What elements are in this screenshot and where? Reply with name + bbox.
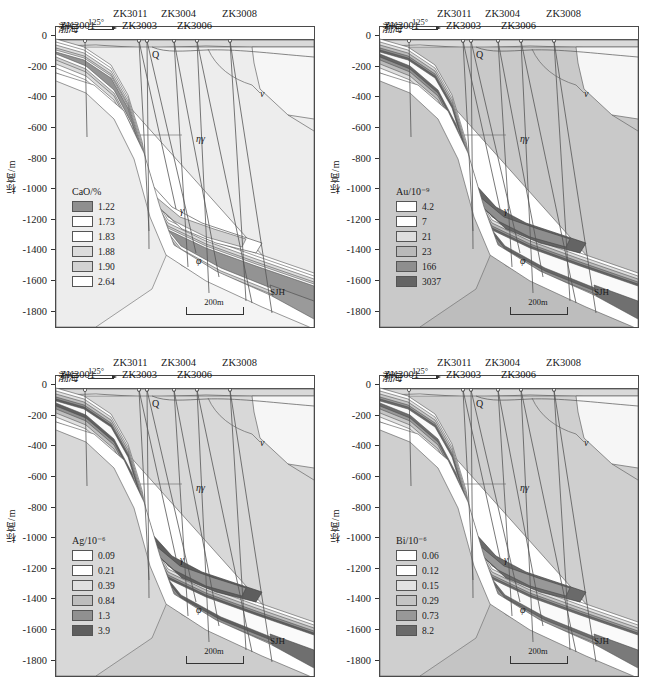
legend-item[interactable]: 0.29 [396, 594, 439, 608]
y-axis-tick-label: 0 [0, 379, 47, 390]
legend-swatch [396, 201, 417, 212]
scale-bar: 200m [510, 646, 568, 664]
geology-label-SJH: SJH [594, 636, 609, 646]
y-axis-title: 标高/m [4, 142, 18, 212]
legend-item[interactable]: 1.73 [72, 215, 115, 229]
geology-label-: ηγ [520, 133, 529, 144]
legend-item[interactable]: 0.15 [396, 579, 439, 593]
y-axis-tick-label: -1200 [324, 562, 371, 573]
panel-cao: 0-200-400-600-800-1000-1200-1400-1600-18… [0, 0, 324, 349]
legend-value: 1.22 [98, 202, 115, 212]
geology-label-: ν [584, 88, 588, 99]
geology-label-Q: Q [152, 49, 159, 60]
legend-value: 0.39 [98, 581, 115, 591]
legend-swatch [72, 610, 93, 621]
legend: Au/10⁻⁹4.2721231663037 [396, 186, 441, 290]
legend-value: 0.29 [422, 596, 439, 606]
scale-bar-label: 200m [510, 646, 566, 656]
legend-value: 0.09 [98, 551, 115, 561]
y-axis-tick-label: 0 [0, 30, 47, 41]
y-axis-tick-label: -1600 [324, 624, 371, 635]
legend-item[interactable]: 0.12 [396, 564, 439, 578]
legend-value: 0.73 [422, 611, 439, 621]
borehole-label-zk3003: ZK3003 [122, 20, 157, 31]
panel-au: 0-200-400-600-800-1000-1200-1400-1600-18… [324, 0, 647, 349]
legend-swatch [72, 595, 93, 606]
geology-label-: φ [520, 255, 526, 266]
geology-label-Q: Q [476, 49, 483, 60]
legend-value: 3037 [422, 277, 441, 287]
y-axis-tick-label: -1800 [0, 654, 47, 665]
y-axis-tick-label: -1200 [0, 213, 47, 224]
legend-swatch [396, 595, 417, 606]
legend-item[interactable]: 0.73 [396, 609, 439, 623]
legend-swatch [396, 231, 417, 242]
geology-label-: γ [180, 554, 184, 565]
legend-swatch [72, 625, 93, 636]
scale-bar-label: 200m [186, 646, 242, 656]
legend-item[interactable]: 21 [396, 230, 441, 244]
legend-value: 0.21 [98, 566, 115, 576]
legend-swatch [396, 610, 417, 621]
legend-item[interactable]: 7 [396, 215, 441, 229]
y-axis-tick-label: -200 [324, 409, 371, 420]
scale-bar-label: 200m [510, 297, 566, 307]
legend-value: 166 [422, 262, 436, 272]
legend-value: 4.2 [422, 202, 434, 212]
geology-label-SJH: SJH [270, 636, 285, 646]
y-axis-tick-label: -1200 [324, 213, 371, 224]
legend-item[interactable]: 1.3 [72, 609, 115, 623]
legend-item[interactable]: 2.64 [72, 275, 115, 289]
geology-label-: φ [520, 604, 526, 615]
borehole-label-zk3004: ZK3004 [161, 8, 196, 19]
legend-item[interactable]: 166 [396, 260, 441, 274]
legend-item[interactable]: 23 [396, 245, 441, 259]
borehole-label-zk3006: ZK3006 [177, 369, 212, 380]
legend-item[interactable]: 1.88 [72, 245, 115, 259]
y-axis-tick-label: -1800 [324, 305, 371, 316]
borehole-label-zk3006: ZK3006 [501, 20, 536, 31]
legend-swatch [396, 565, 417, 576]
y-axis-tick-label: -400 [324, 91, 371, 102]
scale-bar-label: 200m [186, 297, 242, 307]
legend: Ag/10⁻⁶0.090.210.390.841.33.9 [72, 535, 115, 639]
legend-item[interactable]: 3.9 [72, 624, 115, 638]
scale-bar-line [186, 656, 244, 664]
legend-item[interactable]: 0.09 [72, 549, 115, 563]
legend-item[interactable]: 1.22 [72, 200, 115, 214]
legend-item[interactable]: 1.83 [72, 230, 115, 244]
geology-label-: ηγ [520, 482, 529, 493]
scale-bar: 200m [186, 646, 244, 664]
borehole-label-zk3001: ZK3001 [60, 369, 95, 380]
borehole-label-zk3008: ZK3008 [546, 357, 581, 368]
borehole-label-zk3001: ZK3001 [60, 20, 95, 31]
borehole-label-zk3008: ZK3008 [222, 357, 257, 368]
geology-label-: γ [504, 554, 508, 565]
legend-item[interactable]: 8.2 [396, 624, 439, 638]
y-axis-tick-label: -1600 [0, 275, 47, 286]
legend: CaO/%1.221.731.831.881.902.64 [72, 186, 115, 290]
borehole-label-zk3008: ZK3008 [546, 8, 581, 19]
legend-swatch [72, 550, 93, 561]
y-axis-tick-label: -1400 [324, 593, 371, 604]
borehole-label-zk3001: ZK3001 [384, 20, 419, 31]
legend-item[interactable]: 4.2 [396, 200, 441, 214]
legend-swatch [72, 246, 93, 257]
legend-item[interactable]: 3037 [396, 275, 441, 289]
legend-item[interactable]: 1.90 [72, 260, 115, 274]
geology-label-SJH: SJH [594, 287, 609, 297]
legend-item[interactable]: 0.06 [396, 549, 439, 563]
borehole-label-zk3011: ZK3011 [113, 357, 148, 368]
y-axis-tick-label: -1200 [0, 562, 47, 573]
legend-item[interactable]: 0.21 [72, 564, 115, 578]
legend-item[interactable]: 0.84 [72, 594, 115, 608]
borehole-label-zk3003: ZK3003 [122, 369, 157, 380]
borehole-label-zk3001: ZK3001 [384, 369, 419, 380]
geology-label-Q: Q [152, 398, 159, 409]
geology-label-: ηγ [196, 482, 205, 493]
y-axis-title: 标高/m [328, 142, 342, 212]
legend-item[interactable]: 0.39 [72, 579, 115, 593]
y-axis-tick-label: -600 [324, 122, 371, 133]
panel-bi: 0-200-400-600-800-1000-1200-1400-1600-18… [324, 349, 647, 698]
legend-value: 23 [422, 247, 432, 257]
